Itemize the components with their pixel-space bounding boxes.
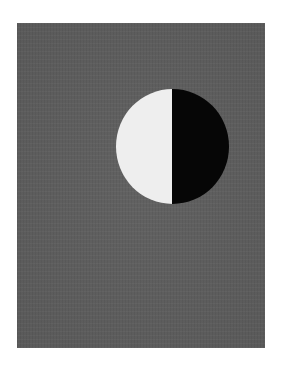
split-circle <box>116 89 229 204</box>
circle-dark-half <box>172 89 229 204</box>
circle-light-half <box>116 89 172 204</box>
